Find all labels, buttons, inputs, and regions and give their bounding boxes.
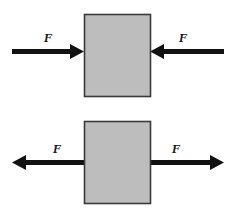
bottom-right-arrowhead — [210, 155, 224, 170]
bottom-block — [85, 122, 151, 204]
bottom-left-arrowhead — [12, 155, 26, 170]
top-left-force-label: F — [43, 30, 53, 45]
top-right-force-label: F — [178, 30, 188, 45]
top-right-arrow — [150, 44, 224, 59]
bottom-panel: F F — [12, 122, 224, 204]
force-diagram-figure: F F F F — [0, 0, 235, 217]
top-left-arrowhead — [70, 44, 84, 59]
bottom-right-force-label: F — [171, 141, 181, 156]
top-right-arrowhead — [150, 44, 164, 59]
bottom-left-force-label: F — [52, 141, 62, 156]
top-block — [85, 15, 151, 97]
diagram-canvas: F F F F — [0, 0, 235, 217]
top-left-arrow — [12, 44, 84, 59]
top-panel: F F — [12, 15, 224, 97]
bottom-right-arrow — [150, 155, 224, 170]
bottom-left-arrow — [12, 155, 84, 170]
